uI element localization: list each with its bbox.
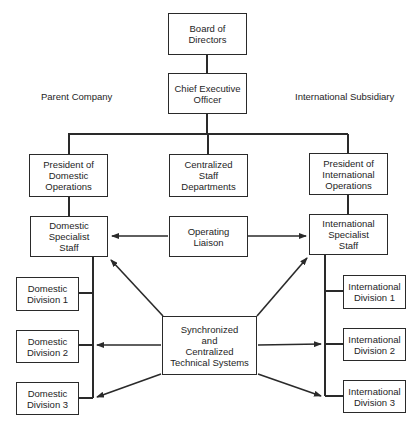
ceo-box: Chief Executive Officer [168,73,247,114]
president-domestic-box: President of Domestic Operations [29,154,108,197]
board-of-directors-box: Board of Directors [168,13,247,55]
domestic-specialist-box: Domestic Specialist Staff [30,216,108,257]
centralized-staff-box: Centralized Staff Departments [169,154,248,197]
domestic-division-3-box: Domestic Division 3 [16,382,79,415]
parent-company-label: Parent Company [41,91,112,102]
operating-liaison-box: Operating Liaison [169,216,248,257]
president-international-box: President of International Operations [309,153,388,195]
international-specialist-box: International Specialist Staff [309,214,388,255]
technical-systems-box: Synchronized and Centralized Technical S… [162,316,257,375]
international-division-3-box: International Division 3 [343,380,406,413]
international-subsidiary-label: International Subsidiary [295,91,394,102]
international-division-1-box: International Division 1 [343,275,406,309]
domestic-division-2-box: Domestic Division 2 [16,330,79,363]
international-division-2-box: International Division 2 [343,328,406,361]
domestic-division-1-box: Domestic Division 1 [16,277,79,311]
